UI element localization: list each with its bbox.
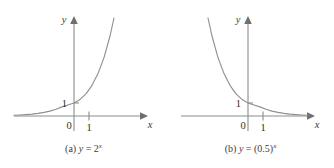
x-axis-label-a: x [147, 119, 153, 130]
plot-b: y x 1 0 1 [167, 0, 334, 140]
y-axis-arrowhead-a [70, 16, 78, 24]
caption-a: (a) y = 2x [0, 142, 167, 156]
caption-b: (b) y = (0.5)x [167, 142, 334, 156]
y-axis-tick-label-1-a: 1 [62, 98, 67, 109]
figure-panel-a: y x 1 0 1 (a) y = 2x [0, 0, 167, 168]
plot-a: y x 1 0 1 [0, 0, 167, 140]
caption-exponent-a: x [99, 142, 102, 150]
caption-equals-a: = [86, 143, 92, 154]
caption-variable-a: y [79, 143, 83, 154]
caption-equals-b: = [246, 143, 252, 154]
y-axis-label-a: y [61, 14, 67, 25]
y-axis-label-b: y [235, 14, 241, 25]
caption-variable-b: y [239, 143, 243, 154]
y-axis-arrowhead-b [244, 16, 252, 24]
caption-tag-a: (a) [65, 143, 76, 154]
origin-label-a: 0 [66, 120, 71, 131]
origin-label-b: 0 [240, 120, 245, 131]
y-axis-tick-label-1-b: 1 [236, 98, 241, 109]
caption-base-b: (0.5) [254, 143, 273, 154]
exponential-graphs-figure: y x 1 0 1 (a) y = 2x y [0, 0, 334, 168]
x-axis-tick-label-1-b: 1 [260, 122, 265, 133]
x-axis-tick-label-1-a: 1 [86, 122, 91, 133]
x-axis-label-b: x [314, 119, 320, 130]
figure-panel-b: y x 1 0 1 (b) y = (0.5)x [167, 0, 334, 168]
caption-exponent-b: x [273, 142, 276, 150]
caption-tag-b: (b) [225, 143, 237, 154]
exponential-decay-curve-b [208, 18, 308, 115]
